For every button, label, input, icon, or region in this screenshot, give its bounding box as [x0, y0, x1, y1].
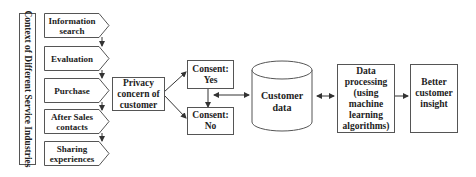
consent-yes-box: Consent: Yes: [187, 60, 234, 89]
consent-yes-label: Consent: Yes: [188, 64, 233, 86]
connector-arrows: [0, 0, 476, 177]
customer-data-label: Customer data: [251, 82, 313, 122]
consent-no-box: Consent: No: [187, 107, 234, 135]
consent-no-label: Consent: No: [188, 110, 233, 132]
privacy-concern-label: Privacy concern of customer: [113, 78, 164, 111]
data-processing-box: Data processing (using machine learning …: [337, 64, 395, 133]
privacy-concern-box: Privacy concern of customer: [112, 77, 165, 111]
better-insight-box: Better customer insight: [410, 64, 458, 133]
better-insight-label: Better customer insight: [411, 77, 457, 110]
data-processing-label: Data processing (using machine learning …: [340, 66, 392, 132]
customer-data-cylinder: Customer data: [251, 60, 313, 132]
